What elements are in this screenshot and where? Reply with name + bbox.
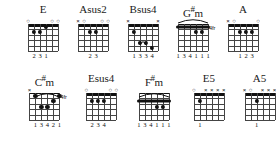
finger-dot xyxy=(250,30,254,34)
finger-number: 1 xyxy=(132,52,135,60)
fret-line xyxy=(178,35,208,36)
chord-name: Bsus4 xyxy=(130,4,157,16)
chord-grid-area: 4fr13421 xyxy=(29,87,59,130)
chord-diagram: F#m134111 xyxy=(138,73,171,130)
fretboard-grid: 4fr xyxy=(178,24,208,51)
finger-dot xyxy=(238,30,242,34)
finger-dot xyxy=(254,99,258,103)
string-line xyxy=(86,93,87,120)
barre xyxy=(176,25,210,28)
fret-position-label: 4fr xyxy=(60,94,66,100)
string-line xyxy=(263,93,264,120)
string-line xyxy=(28,24,29,51)
fret-line xyxy=(86,104,116,105)
finger-number: 3 xyxy=(97,121,100,129)
finger-number: 1 xyxy=(155,121,158,129)
string-line xyxy=(158,24,159,51)
fret-line xyxy=(228,46,258,47)
finger-dot xyxy=(132,30,136,34)
fingering-numbers: 134111 xyxy=(178,52,208,61)
nut xyxy=(86,93,116,96)
finger-number: 4 xyxy=(149,121,152,129)
finger-number: 3 xyxy=(94,52,97,60)
finger-dot xyxy=(194,30,198,34)
string-line xyxy=(116,93,117,120)
fret-position-label: 4fr xyxy=(209,25,215,31)
string-line xyxy=(104,93,105,120)
finger-number: 1 xyxy=(255,121,258,129)
finger-number: 1 xyxy=(194,52,197,60)
finger-number: 1 xyxy=(44,52,47,60)
fret-line xyxy=(194,115,224,116)
fret-line xyxy=(228,40,258,41)
finger-number: 3 xyxy=(38,52,41,60)
fret-line xyxy=(86,109,116,110)
fret-line xyxy=(194,104,224,105)
string-line xyxy=(218,93,219,120)
chord-name: G#m xyxy=(183,4,203,16)
fingering-numbers: 1334 xyxy=(128,52,158,61)
chord-diagram: Esus4234 xyxy=(85,73,118,130)
string-line xyxy=(246,24,247,51)
string-line xyxy=(257,93,258,120)
fret-line xyxy=(86,115,116,116)
barre xyxy=(137,100,171,103)
fingering-numbers: 134111 xyxy=(139,121,169,130)
fret-line xyxy=(139,109,169,110)
finger-dot xyxy=(39,104,43,108)
finger-number: 4 xyxy=(103,121,106,129)
finger-dot xyxy=(200,30,204,34)
string-line xyxy=(234,24,235,51)
finger-number: 4 xyxy=(46,121,49,129)
fretboard-grid xyxy=(228,24,258,51)
chord-grid-area: 123 xyxy=(228,18,258,61)
string-line xyxy=(200,93,201,120)
string-line xyxy=(240,24,241,51)
string-line xyxy=(134,24,135,51)
string-line xyxy=(245,93,246,120)
fret-line xyxy=(178,46,208,47)
fret-line xyxy=(78,29,108,30)
chord-grid-area: 231 xyxy=(28,18,58,61)
chord-row: C#m4fr13421Esus4234F#m134111E51A51 xyxy=(0,73,276,142)
finger-dot xyxy=(102,99,106,103)
fret-line xyxy=(78,35,108,36)
fretboard-grid xyxy=(28,24,58,51)
finger-dot xyxy=(96,99,100,103)
string-line xyxy=(128,24,129,51)
finger-number: 1 xyxy=(198,121,201,129)
chord-diagram: Asus223 xyxy=(78,4,108,61)
finger-number: 1 xyxy=(161,121,164,129)
chord-name: Esus4 xyxy=(88,73,114,85)
chord-row: E231Asus223Bsus41334G#m4fr134111A123B133… xyxy=(0,4,276,73)
chord-name: C#m xyxy=(35,73,54,85)
fingering-numbers: 1 xyxy=(245,121,275,130)
chord-diagram: A51 xyxy=(243,73,276,130)
chord-grid-area: 1334 xyxy=(128,18,158,61)
nut xyxy=(128,24,158,27)
fret-line xyxy=(78,40,108,41)
string-line xyxy=(275,93,276,120)
fret-line xyxy=(245,98,275,99)
nut xyxy=(78,24,108,27)
string-line xyxy=(224,93,225,120)
string-line xyxy=(29,93,30,120)
string-line xyxy=(40,24,41,51)
finger-number: 2 xyxy=(91,121,94,129)
string-line xyxy=(140,24,141,51)
string-line xyxy=(194,93,195,120)
string-line xyxy=(34,24,35,51)
finger-number: 1 xyxy=(167,121,170,129)
fretboard-grid xyxy=(78,24,108,51)
finger-number: 3 xyxy=(144,52,147,60)
finger-dot xyxy=(161,104,165,108)
chord-grid-area: 23 xyxy=(78,18,108,61)
barre-arc xyxy=(137,92,171,99)
string-line xyxy=(96,24,97,51)
finger-dot xyxy=(32,30,36,34)
fret-line xyxy=(245,115,275,116)
chord-name: A xyxy=(239,4,247,16)
chord-diagram: C#m4fr13421 xyxy=(28,73,61,130)
string-line xyxy=(90,24,91,51)
finger-dot xyxy=(155,104,159,108)
